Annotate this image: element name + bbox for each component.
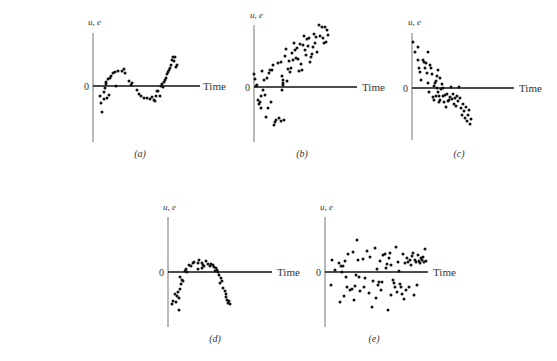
data-point [303,35,306,38]
data-point [424,67,427,70]
data-point [390,264,393,267]
panel-a: u, e0Time(a) [84,17,226,160]
data-point [341,271,344,274]
data-point [263,79,266,82]
data-point [428,91,431,94]
data-point [165,77,168,80]
data-point [368,292,371,295]
zero-tick-label: 0 [159,267,164,278]
data-point [439,77,442,80]
data-point [331,259,334,262]
data-point [419,262,422,265]
data-point [330,284,333,287]
data-points [412,41,473,126]
y-axis-label: u, e [250,10,263,20]
data-point [154,100,157,103]
data-point [406,257,409,260]
data-point [318,24,321,27]
data-point [288,60,291,63]
data-point [309,61,312,64]
data-point [265,116,268,119]
x-axis-label: Time [433,266,456,278]
data-point [308,37,311,40]
data-point [371,306,374,309]
data-point [452,93,455,96]
y-axis-label: u, e [408,17,421,27]
data-point [203,265,206,268]
data-point [198,259,201,262]
data-point [296,47,299,50]
data-point [416,284,419,287]
x-axis-label: Time [277,266,300,278]
data-point [380,289,383,292]
data-point [114,71,117,74]
data-point [101,111,104,114]
data-point [177,291,180,294]
data-point [105,81,108,84]
data-point [311,53,314,56]
data-point [369,256,372,259]
data-point [405,289,408,292]
data-point [461,114,464,117]
x-axis-label: Time [203,80,226,92]
data-point [366,250,369,253]
data-point [419,71,422,74]
data-point [427,82,430,85]
data-point [282,84,285,87]
data-point [435,80,438,83]
data-point [451,98,454,101]
data-point [379,260,382,263]
zero-tick-label: 0 [245,82,250,93]
data-point [280,120,283,123]
data-point [363,286,366,289]
data-point [325,41,328,44]
data-point [162,86,165,89]
data-point [225,293,228,296]
data-point [280,61,283,64]
data-point [305,54,308,57]
data-point [270,101,273,104]
data-point [468,109,471,112]
data-point [469,123,472,126]
data-point [413,294,416,297]
data-point [442,87,445,90]
data-point [345,276,348,279]
data-point [173,60,176,63]
data-point [443,101,446,104]
data-point [131,82,134,85]
data-point [334,269,337,272]
data-points [330,239,428,312]
data-point [460,107,463,110]
data-point [321,26,324,29]
data-point [176,64,179,67]
data-point [283,119,286,122]
data-point [178,297,181,300]
panel-d: u, e0Time(d) [159,202,300,345]
data-point [256,84,259,87]
data-point [436,87,439,90]
data-point [275,119,278,122]
data-point [326,29,329,32]
residual-pattern-figure: u, e0Time(a)u, e0Time(b)u, e0Time(c)u, e… [0,0,557,361]
data-point [384,253,387,256]
data-point [115,85,118,88]
data-point [292,59,295,62]
panel-c: u, e0Time(c) [403,17,542,160]
panel-caption: (e) [368,333,380,345]
data-point [356,239,359,242]
data-point [410,264,413,267]
data-point [425,62,428,65]
data-point [467,114,470,117]
data-point [433,99,436,102]
data-point [399,283,402,286]
data-point [445,106,448,109]
data-point [466,120,469,123]
data-point [424,248,427,251]
data-point [99,95,102,98]
data-point [411,255,414,258]
data-point [339,301,342,304]
data-points [99,56,179,114]
data-point [297,58,300,61]
data-point [354,285,357,288]
y-axis-label: u, e [163,202,176,212]
